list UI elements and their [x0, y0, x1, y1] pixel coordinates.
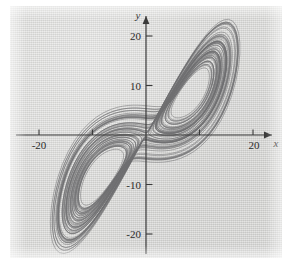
x-axis-arrowhead [264, 132, 272, 139]
lorenz-attractor-chart: -20 20 20 10 -10 -20 x y [10, 6, 282, 258]
x-tick-label--20: -20 [32, 139, 47, 151]
axes-group [16, 16, 272, 254]
y-axis-label: y [135, 9, 141, 21]
y-tick-label--10: -10 [126, 179, 141, 191]
y-tick-label-20: 20 [130, 30, 142, 42]
trajectory-path [50, 19, 240, 253]
x-axis-label: x [273, 137, 279, 149]
plot-area: -20 20 20 10 -10 -20 x y [10, 6, 282, 258]
figure-page: -20 20 20 10 -10 -20 x y [0, 0, 292, 267]
x-tick-label-20: 20 [249, 139, 261, 151]
y-axis-arrowhead [143, 16, 150, 24]
trajectory-group [50, 19, 240, 253]
y-tick-label-10: 10 [130, 80, 142, 92]
y-tick-label--20: -20 [126, 228, 141, 240]
